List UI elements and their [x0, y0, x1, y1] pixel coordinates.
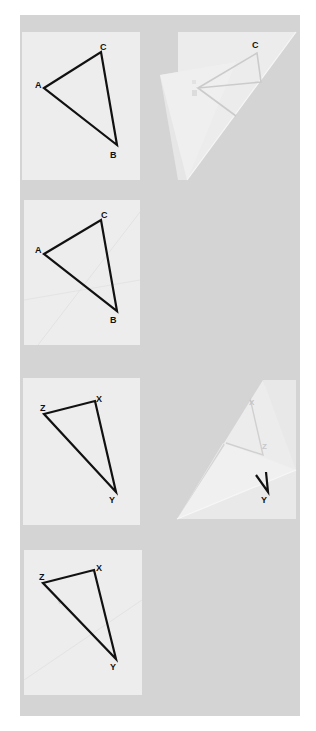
vertex-label-y: Y	[110, 662, 116, 672]
vertex-label-z: Z	[39, 572, 45, 582]
figure-triangle-xyz-unfolded: Z X Y	[0, 0, 316, 731]
vertex-label-x: X	[96, 563, 102, 573]
triangle-xyz-unfolded-drawing: Z X Y	[0, 0, 316, 731]
